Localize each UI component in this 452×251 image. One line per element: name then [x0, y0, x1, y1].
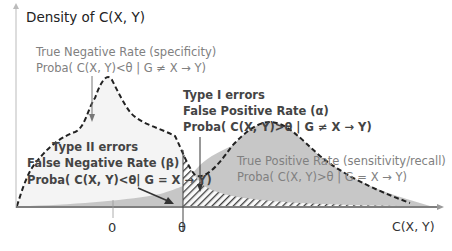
- tpr-label-line2: Proba( C(X, Y)>θ | G = X → Y): [237, 172, 407, 184]
- type1-label-line1: Type I errors: [183, 90, 265, 102]
- tnr-label-line2: Proba( C(X, Y)<θ | G ≠ X → Y): [36, 63, 206, 75]
- theta-tick-label: θ: [178, 221, 186, 234]
- type1-label-line2: False Positive Rate (α): [183, 106, 329, 118]
- x-axis-label: C(X, Y): [392, 221, 435, 234]
- zero-tick-label: 0: [108, 221, 116, 234]
- tpr-label-line1: True Positive Rate (sensitivity/recall): [237, 156, 446, 168]
- y-axis-label: Density of C(X, Y): [26, 11, 145, 25]
- tnr-label-line1: True Negative Rate (specificity): [36, 47, 216, 59]
- type2-label-line2: False Negative Rate (β): [27, 158, 179, 170]
- type2-label-line3: Proba( C(X, Y)<θ| G = X → Y): [27, 175, 212, 187]
- type1-label-line3: Proba( C(X, Y)>θ | G ≠ X → Y): [183, 122, 372, 134]
- error-rate-diagram: Density of C(X, Y) True Negative Rate (s…: [0, 0, 452, 251]
- type2-label-line1: Type II errors: [52, 142, 138, 154]
